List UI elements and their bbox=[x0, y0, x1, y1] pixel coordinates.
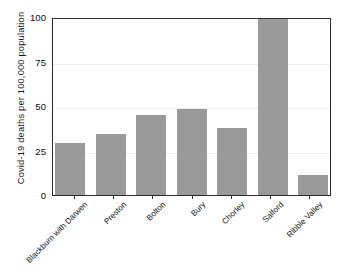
x-tick-mark bbox=[192, 196, 193, 199]
bar bbox=[258, 19, 288, 195]
x-tick-mark bbox=[152, 196, 153, 199]
bar bbox=[177, 109, 207, 195]
x-tick-label: Ribble Valley bbox=[285, 200, 324, 239]
bar bbox=[217, 128, 247, 195]
x-tick-label: Chorley bbox=[220, 200, 246, 226]
plot-area bbox=[52, 18, 331, 196]
x-tick-mark bbox=[74, 196, 75, 199]
y-tick-label: 25 bbox=[22, 147, 46, 157]
y-tick-label: 0 bbox=[22, 191, 46, 201]
bar bbox=[55, 143, 85, 195]
x-tick-label: Bury bbox=[189, 200, 207, 218]
y-tick-label: 75 bbox=[22, 58, 46, 68]
x-axis-tick-labels: Blackburn with DarwenPrestonBoltonBuryCh… bbox=[52, 196, 331, 277]
bar-series bbox=[53, 19, 330, 195]
y-axis-tick-labels: 1007550250 bbox=[22, 0, 46, 277]
x-tick-mark bbox=[113, 196, 114, 199]
chart-page: Covid-19 deaths per 100,000 population 1… bbox=[0, 0, 347, 277]
bar bbox=[96, 134, 126, 195]
x-tick-label: Salford bbox=[261, 200, 286, 225]
bar bbox=[136, 115, 166, 195]
bar bbox=[298, 175, 328, 195]
x-tick-label: Bolton bbox=[145, 200, 168, 223]
y-tick-label: 50 bbox=[22, 102, 46, 112]
x-tick-mark bbox=[270, 196, 271, 199]
x-tick-mark bbox=[231, 196, 232, 199]
y-tick-label: 100 bbox=[22, 13, 46, 23]
plot-inner bbox=[53, 19, 330, 195]
x-tick-mark bbox=[309, 196, 310, 199]
x-tick-label: Preston bbox=[102, 200, 128, 226]
